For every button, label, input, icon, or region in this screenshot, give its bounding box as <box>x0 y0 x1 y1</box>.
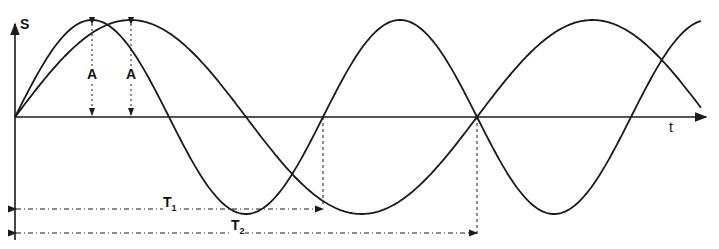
y-axis-label: S <box>20 17 29 31</box>
x-axis-label: t <box>669 120 673 134</box>
t2-label: T2 <box>231 218 245 236</box>
amplitude-label-2: A <box>126 67 136 81</box>
amplitude-label-1: A <box>87 67 97 81</box>
t1-label: T1 <box>163 195 177 213</box>
oscillation-diagram <box>0 0 719 249</box>
